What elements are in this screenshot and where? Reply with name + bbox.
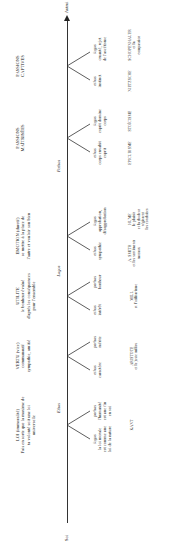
author-mill: MILL et l'utilitarisme xyxy=(130,271,139,321)
author-stoicisme: STOÏCISME xyxy=(128,101,132,141)
branch-right-passions-captives: logos cruauté, rejet de l'ascétisme xyxy=(92,27,107,71)
column-header-passions-maitrisees: PASSIONS MAÎTRISÉES xyxy=(15,113,26,163)
branch-left-utilite: ethos intérêt xyxy=(92,295,102,325)
branch-right-utilite: pathos bonheur xyxy=(92,267,102,297)
branch-right-vertu: pathos mérite xyxy=(92,327,102,357)
author-smith: A. SMITH et les sentiments moraux xyxy=(128,233,141,273)
section-label-logos: Logos xyxy=(56,259,61,283)
author-kant: KANT xyxy=(130,410,134,440)
author-hume: HUME le plaisir et la douleur régissent … xyxy=(128,199,150,239)
diagram-stage: Soi Autrui Ethos Logos Pathos LOI (immor… xyxy=(0,0,180,543)
branch-left-vertu: ethos caractère xyxy=(92,354,102,386)
column-header-utilite: UTILITE le bonheur évalué d'après les co… xyxy=(15,261,36,331)
column-header-loi: LOI (immoralité) Fais en sorte que la ma… xyxy=(15,385,36,465)
branch-right-loi: pathos l'humanité est une fin en soi xyxy=(92,393,112,429)
column-header-passions-captives: PASSIONS CAPTIVES xyxy=(15,41,26,91)
section-label-ethos: Ethos xyxy=(56,396,61,420)
author-aristote: ARISTOTE et le juste milieu xyxy=(130,331,139,381)
branch-right-emotion: logos approbation, désapprobation xyxy=(92,201,107,241)
author-schopenhauer: SCHOPENHAUER et la compassion xyxy=(128,21,141,69)
branch-right-passions-maitrisees: logos esprit domine corps xyxy=(92,101,107,141)
section-label-pathos: Pathos xyxy=(56,154,61,178)
column-header-vertu: VERTU (vice) communauté sympathie, amiti… xyxy=(15,326,31,386)
column-header-emotion: EMOTION (dureté) se mettre à la place de… xyxy=(15,201,31,271)
